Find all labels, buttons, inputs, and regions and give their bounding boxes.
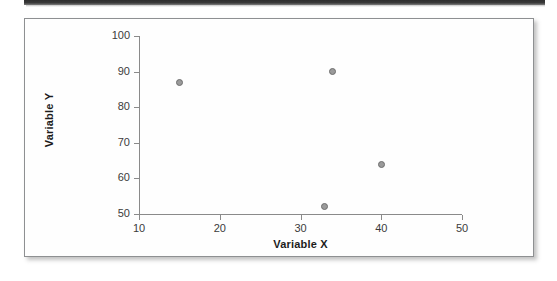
data-point bbox=[329, 68, 336, 75]
data-point bbox=[378, 161, 385, 168]
y-tick-mark bbox=[134, 178, 139, 179]
y-tick-label: 60 bbox=[25, 172, 130, 183]
y-tick-label: 50 bbox=[25, 208, 130, 219]
y-tick-label: 70 bbox=[25, 137, 130, 148]
x-tick-label: 20 bbox=[200, 223, 240, 234]
data-point bbox=[321, 203, 328, 210]
y-tick-mark bbox=[134, 143, 139, 144]
y-tick-mark bbox=[134, 107, 139, 108]
y-tick-label: 100 bbox=[25, 30, 130, 41]
x-tick-mark bbox=[381, 215, 382, 220]
y-axis-title: Variable Y bbox=[43, 60, 55, 180]
y-axis-line bbox=[139, 36, 140, 215]
data-point bbox=[176, 79, 183, 86]
x-tick-label: 50 bbox=[442, 223, 482, 234]
x-axis-title: Variable X bbox=[139, 238, 462, 250]
x-tick-mark bbox=[462, 215, 463, 220]
x-tick-mark bbox=[220, 215, 221, 220]
x-tick-mark bbox=[139, 215, 140, 220]
y-tick-label: 90 bbox=[25, 66, 130, 77]
y-tick-mark bbox=[134, 36, 139, 37]
scatter-plot: 5060708090100 1020304050 Variable X Vari… bbox=[25, 19, 535, 258]
figure-box: 5060708090100 1020304050 Variable X Vari… bbox=[24, 18, 534, 257]
x-tick-mark bbox=[301, 215, 302, 220]
x-tick-label: 40 bbox=[361, 223, 401, 234]
top-rule-shadow bbox=[26, 5, 545, 7]
y-tick-label: 80 bbox=[25, 101, 130, 112]
x-tick-label: 10 bbox=[119, 223, 159, 234]
x-tick-label: 30 bbox=[281, 223, 321, 234]
y-tick-mark bbox=[134, 72, 139, 73]
